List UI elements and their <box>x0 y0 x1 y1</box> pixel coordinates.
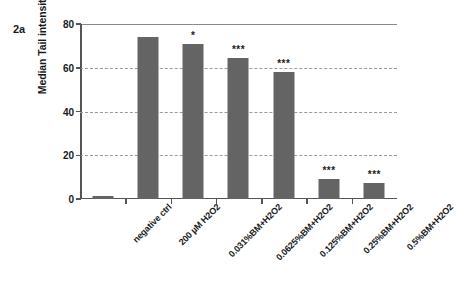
bar-group: *** <box>216 24 261 199</box>
bar-group: *** <box>261 24 306 199</box>
y-tick-label: 20 <box>40 150 74 161</box>
panel-label: 2a <box>13 23 25 35</box>
bar-group <box>125 24 170 199</box>
x-axis-label: negative ctrl <box>130 202 173 245</box>
bar-group <box>80 24 125 199</box>
y-tick-mark <box>76 198 81 200</box>
y-tick-mark <box>76 155 81 157</box>
bar <box>228 58 249 199</box>
y-tick-mark <box>76 23 81 25</box>
y-tick-label: 80 <box>40 19 74 30</box>
significance-marker: *** <box>232 46 245 54</box>
y-tick-mark <box>76 67 81 69</box>
bar-series: ************* <box>80 24 397 199</box>
bar <box>273 72 294 199</box>
y-tick-label: 60 <box>40 62 74 73</box>
y-tick-mark <box>76 111 81 113</box>
x-axis-label: 0.031%BM+H2O2 <box>227 202 284 259</box>
significance-marker: *** <box>368 171 381 179</box>
bar <box>92 196 113 199</box>
bar <box>364 183 385 199</box>
significance-marker: *** <box>277 60 290 68</box>
bar <box>183 44 204 199</box>
x-axis-label: 200 µM H2O2 <box>177 202 222 247</box>
significance-marker: * <box>191 32 195 40</box>
bar-group: *** <box>306 24 351 199</box>
x-axis-labels: negative ctrl200 µM H2O20.031%BM+H2O20.0… <box>80 202 397 287</box>
bar <box>319 179 340 199</box>
plot-area: ************* <box>80 24 397 199</box>
bar-group: * <box>171 24 216 199</box>
bar <box>137 37 158 199</box>
y-tick-label: 40 <box>40 106 74 117</box>
significance-marker: *** <box>322 167 335 175</box>
y-tick-label: 0 <box>40 194 74 205</box>
bar-group: *** <box>352 24 397 199</box>
